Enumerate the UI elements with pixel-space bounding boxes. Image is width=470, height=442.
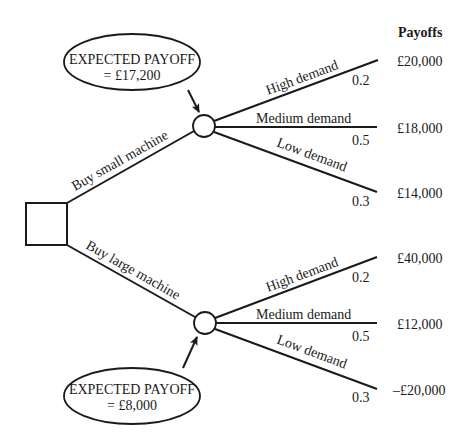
payoff-large-low: –£20,000 xyxy=(392,383,446,398)
chance-node-small xyxy=(193,115,215,137)
probability-small-medium: 0.5 xyxy=(352,133,370,148)
expected-payoff-value-large: = £8,000 xyxy=(107,398,157,413)
outcome-label-small-medium: Medium demand xyxy=(256,111,351,126)
probability-small-high: 0.2 xyxy=(352,73,370,88)
probability-large-medium: 0.5 xyxy=(352,329,370,344)
arrow-icon-large xyxy=(183,337,197,368)
decision-tree-diagram: Payoffs Buy small machine Buy large mach… xyxy=(0,0,470,442)
expected-payoff-value-small: = £17,200 xyxy=(104,68,161,83)
payoff-large-medium: £12,000 xyxy=(397,317,443,332)
probability-small-low: 0.3 xyxy=(352,194,370,209)
payoff-small-medium: £18,000 xyxy=(397,121,443,136)
payoffs-header: Payoffs xyxy=(398,25,443,40)
payoff-small-high: £20,000 xyxy=(397,54,443,69)
payoff-small-low: £14,000 xyxy=(397,186,443,201)
branch-buy-large-line xyxy=(67,245,195,317)
chance-node-large xyxy=(194,312,216,334)
branch-label-buy-large: Buy large machine xyxy=(84,238,183,303)
branch-buy-small-line xyxy=(67,131,194,203)
arrow-icon-small xyxy=(188,90,199,112)
outcome-label-large-medium: Medium demand xyxy=(256,307,351,322)
payoff-large-high: £40,000 xyxy=(397,251,443,266)
expected-payoff-title-large: EXPECTED PAYOFF xyxy=(69,382,195,397)
decision-node-square xyxy=(26,203,67,245)
probability-large-high: 0.2 xyxy=(352,270,370,285)
probability-large-low: 0.3 xyxy=(352,390,370,405)
branch-label-buy-small: Buy small machine xyxy=(69,127,170,193)
expected-payoff-title-small: EXPECTED PAYOFF xyxy=(69,52,195,67)
